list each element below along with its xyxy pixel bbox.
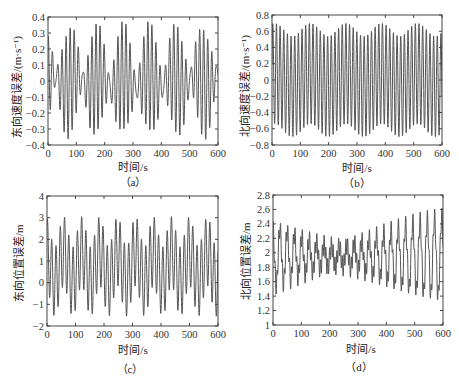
chart-d-ytick-label: 2.2 — [257, 233, 270, 244]
chart-d-ytick-label: 2.8 — [257, 190, 270, 201]
chart-d-ytick-label: 2.6 — [257, 204, 270, 215]
chart-d-ytick-label: 1.6 — [257, 276, 270, 287]
chart-d-ylabel: 北向位置误差/m — [237, 222, 253, 300]
chart-d-xtick-label: 600 — [435, 328, 451, 339]
chart-d-ytick-label: 2.4 — [257, 218, 271, 229]
chart-d-xtick-label: 0 — [270, 328, 275, 339]
chart-d-xtick-label: 400 — [378, 328, 394, 339]
chart-d-ytick-label: 1.8 — [257, 262, 270, 273]
chart-d-xtick-label: 200 — [322, 328, 338, 339]
chart-d-caption: （d） — [334, 358, 384, 374]
chart-d-xtick-label: 100 — [293, 328, 309, 339]
chart-d-xtick-label: 500 — [407, 328, 423, 339]
chart-d-axes-frame — [273, 195, 443, 325]
chart-d-svg: 010020030040050060011.21.41.61.822.22.42… — [0, 0, 459, 379]
panel-d: 010020030040050060011.21.41.61.822.22.42… — [0, 0, 459, 379]
chart-d-ytick-label: 1 — [265, 320, 270, 331]
chart-d-ytick-label: 2 — [265, 247, 270, 258]
chart-d-ytick-label: 1.4 — [257, 291, 271, 302]
chart-d-ytick-label: 1.2 — [257, 305, 270, 316]
chart-d-series-line — [273, 208, 443, 300]
chart-d-xlabel: 时间/s — [331, 340, 391, 356]
chart-d-xtick-label: 300 — [350, 328, 366, 339]
